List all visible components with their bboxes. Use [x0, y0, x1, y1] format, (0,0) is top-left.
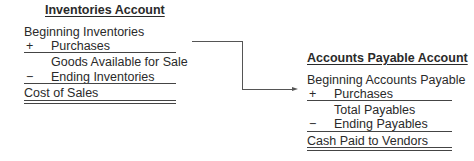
- total-rule: [307, 131, 452, 132]
- plus-sign: +: [26, 39, 33, 53]
- payables-title: Accounts Payable Account: [307, 51, 468, 65]
- purchases: Purchases: [334, 87, 393, 101]
- double-rule-top: [24, 100, 176, 101]
- cash-paid: Cash Paid to Vendors: [307, 134, 428, 148]
- total-payables: Total Payables: [334, 103, 415, 117]
- purchases: Purchases: [51, 39, 110, 53]
- double-rule-bottom: [24, 103, 176, 104]
- arrow-head-icon: [292, 87, 298, 91]
- minus-sign: −: [26, 70, 33, 84]
- double-rule-bottom: [307, 150, 452, 151]
- subtotal-rule: [24, 52, 176, 53]
- subtotal-rule: [307, 100, 452, 101]
- plus-sign: +: [309, 87, 316, 101]
- beginning-inventories: Beginning Inventories: [24, 25, 144, 39]
- inventories-title: Inventories Account: [45, 3, 165, 17]
- total-rule: [24, 83, 176, 84]
- ending-inventories: Ending Inventories: [51, 70, 155, 84]
- double-rule-top: [307, 147, 452, 148]
- minus-sign: −: [309, 117, 316, 131]
- beginning-payables: Beginning Accounts Payable: [307, 73, 465, 87]
- cost-of-sales: Cost of Sales: [24, 86, 98, 100]
- ending-payables: Ending Payables: [334, 117, 428, 131]
- goods-available: Goods Available for Sale: [51, 55, 188, 69]
